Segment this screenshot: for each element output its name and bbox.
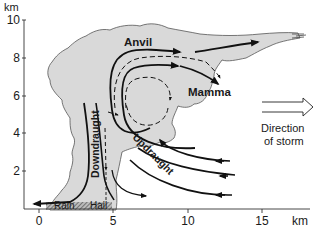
downdraught-label: Downdraught — [89, 110, 101, 178]
x-tick-15: 15 — [255, 214, 269, 228]
x-tick-5: 5 — [110, 214, 117, 228]
y-tick-4: 4 — [13, 126, 20, 140]
thunderstorm-diagram: km 10 8 6 4 2 0 5 10 15 km — [0, 0, 317, 235]
direction-label-2: of storm — [264, 135, 304, 147]
x-tick-10: 10 — [181, 214, 195, 228]
y-tick-2: 2 — [13, 164, 20, 178]
y-tick-10: 10 — [7, 13, 21, 27]
y-tick-8: 8 — [13, 51, 20, 65]
x-axis-unit: km — [292, 214, 308, 228]
rain-label: Rain — [54, 200, 75, 211]
direction-arrow-icon — [262, 98, 313, 116]
y-axis-unit: km — [4, 1, 19, 13]
hail-label: Hail — [90, 200, 107, 211]
direction-label-1: Direction — [261, 122, 304, 134]
mamma-label: Mamma — [188, 86, 231, 98]
y-axis — [22, 20, 26, 209]
anvil-label: Anvil — [124, 36, 152, 48]
x-tick-0: 0 — [36, 214, 43, 228]
y-tick-6: 6 — [13, 89, 20, 103]
